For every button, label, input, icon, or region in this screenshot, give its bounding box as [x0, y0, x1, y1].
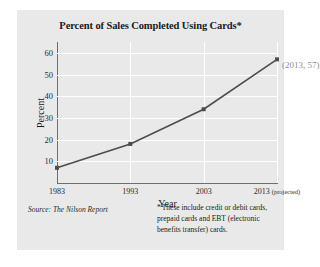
- plot-area: 102030405060 1983199320032013 (projected…: [57, 42, 278, 183]
- data-point-annotation: (2013, 57): [282, 60, 301, 70]
- chart-figure: Percent of Sales Completed Using Cards* …: [17, 10, 284, 250]
- footnote-text: These include credit or debit cards, pre…: [157, 203, 267, 234]
- x-tick-label: 2003: [196, 187, 212, 196]
- y-tick-label: 10: [45, 156, 54, 166]
- chart-title: Percent of Sales Completed Using Cards*: [17, 20, 284, 31]
- y-tick-label: 20: [45, 135, 54, 145]
- data-point-marker: [202, 107, 206, 111]
- x-tick-label: 1983: [49, 187, 65, 196]
- y-tick-label: 60: [45, 48, 54, 58]
- x-axis-line: [57, 183, 278, 184]
- series-polyline: [57, 59, 277, 167]
- series-line: [57, 42, 278, 183]
- footnote-marker: *: [157, 203, 161, 212]
- data-point-marker: [55, 166, 59, 170]
- x-tick-label: 1993: [122, 187, 138, 196]
- source-note: Source: The Nilson Report: [28, 205, 108, 214]
- y-tick-label: 50: [45, 70, 54, 80]
- y-tick-label: 40: [45, 91, 54, 101]
- y-tick-label: 30: [45, 113, 54, 123]
- y-axis-label: Percent: [35, 98, 46, 128]
- footnote: *These include credit or debit cards, pr…: [157, 203, 279, 236]
- data-point-marker: [275, 57, 279, 61]
- data-point-marker: [128, 142, 132, 146]
- x-tick-label: 2013 (projected): [254, 187, 301, 196]
